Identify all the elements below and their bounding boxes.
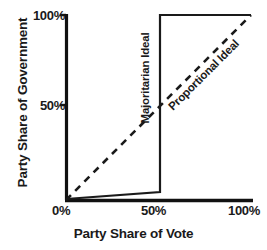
y-axis-tick-label-100: 100% xyxy=(33,8,65,23)
x-axis-tick-label-0: 0% xyxy=(52,203,70,218)
x-axis-tick-label-50: 50% xyxy=(141,203,166,218)
series-label-majoritarian-ideal: Majoritarian Ideal xyxy=(139,18,151,138)
plot-area xyxy=(0,0,267,250)
x-axis-title: Party Share of Vote xyxy=(0,226,267,241)
y-axis-title: Party Share of Government xyxy=(15,3,30,203)
chart-figure: 100% 50% 0% 50% 100% Party Share of Vote… xyxy=(0,0,267,250)
proportional-ideal-line xyxy=(66,15,251,200)
y-axis-tick-label-50: 50% xyxy=(40,98,65,113)
x-axis-tick-label-100: 100% xyxy=(228,203,260,218)
